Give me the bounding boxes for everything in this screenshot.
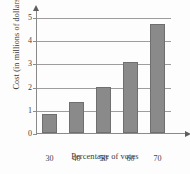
- bar-series: [36, 17, 171, 133]
- bar-slot: [150, 17, 165, 133]
- y-tick-label: 5: [28, 14, 32, 22]
- y-tick-label: 2: [28, 84, 32, 92]
- x-axis-arrow-icon: [185, 131, 190, 137]
- y-axis-arrow-icon: [33, 5, 39, 11]
- bar-chart: Cost (in millions of dollars) 012345 304…: [0, 0, 190, 174]
- bar-slot: [69, 17, 84, 133]
- x-axis-title: Percentage of votes: [30, 152, 180, 161]
- plot-area: 012345 3040506070: [36, 18, 178, 134]
- bar-slot: [42, 17, 57, 133]
- y-tick-mark: [33, 134, 37, 135]
- y-tick-label: 1: [28, 107, 32, 115]
- bar-slot: [96, 17, 111, 133]
- y-tick-label: 3: [28, 60, 32, 68]
- bar-slot: [123, 17, 138, 133]
- y-tick-label: 0: [28, 130, 32, 138]
- y-axis-title: Cost (in millions of dollars): [12, 0, 21, 101]
- bar: [96, 87, 111, 133]
- y-tick-label: 4: [28, 37, 32, 45]
- bar: [123, 62, 138, 133]
- bar: [69, 102, 84, 133]
- bar: [150, 24, 165, 133]
- bar: [42, 114, 57, 133]
